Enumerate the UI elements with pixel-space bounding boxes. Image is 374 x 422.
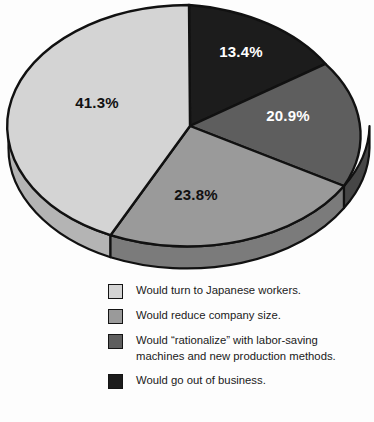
legend-swatch-out-of-business xyxy=(108,374,123,389)
legend-item-japanese-workers[interactable]: Would turn to Japanese workers. xyxy=(108,283,374,299)
legend-swatch-rationalize xyxy=(108,334,123,349)
legend-item-rationalize[interactable]: Would “rationalize” with labor-saving ma… xyxy=(108,333,374,364)
legend-label-rationalize: Would “rationalize” with labor-saving ma… xyxy=(136,333,336,364)
pie-label-japanese-workers: 41.3% xyxy=(75,94,119,111)
pie-chart-figure: 13.4% 20.9% 23.8% 41.3% Would turn to Ja… xyxy=(0,0,374,422)
pie-label-rationalize: 20.9% xyxy=(266,107,310,124)
pie-label-out-of-business: 13.4% xyxy=(219,43,263,60)
legend-item-out-of-business[interactable]: Would go out of business. xyxy=(108,373,374,389)
legend-item-reduce-company-size[interactable]: Would reduce company size. xyxy=(108,308,374,324)
legend-swatch-reduce-company-size xyxy=(108,309,123,324)
pie-top-surface xyxy=(7,5,360,246)
legend-label-reduce-company-size: Would reduce company size. xyxy=(136,308,281,324)
legend-swatch-japanese-workers xyxy=(108,284,123,299)
legend-label-japanese-workers: Would turn to Japanese workers. xyxy=(136,283,301,299)
pie-label-reduce-company-size: 23.8% xyxy=(174,186,218,203)
chart-legend: Would turn to Japanese workers. Would re… xyxy=(108,283,374,398)
legend-label-out-of-business: Would go out of business. xyxy=(136,373,266,389)
